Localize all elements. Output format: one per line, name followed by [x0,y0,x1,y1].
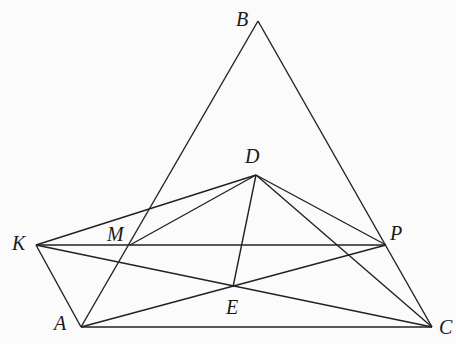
point-label-m: M [106,223,125,245]
segment-ab [81,21,258,327]
point-label-d: D [244,145,260,167]
point-label-b: B [236,8,248,30]
point-label-e: E [225,296,238,318]
point-label-k: K [11,232,27,254]
point-label-c: C [439,316,453,338]
geometry-diagram: ABCDEKMP [0,0,456,344]
segment-kd [36,175,256,245]
segments [36,21,432,327]
segment-dc [256,175,432,327]
segment-dp [256,175,386,245]
point-label-a: A [52,312,67,334]
segment-bc [258,21,432,327]
point-label-p: P [389,222,402,244]
segment-de [233,175,256,287]
